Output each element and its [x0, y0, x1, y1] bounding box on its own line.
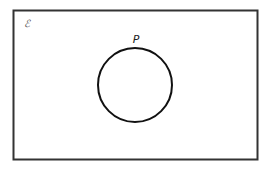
set-p-label: P: [133, 33, 140, 46]
universal-set-symbol: ℰ: [24, 18, 31, 29]
venn-diagram: ℰ P: [0, 0, 269, 171]
set-p-circle: [98, 48, 172, 122]
